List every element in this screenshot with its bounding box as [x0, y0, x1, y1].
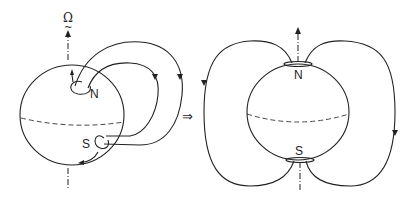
right-field-loop	[305, 41, 395, 186]
right-north-label: N	[294, 68, 303, 82]
left-equator	[21, 118, 124, 125]
right-panel: N S	[201, 27, 398, 190]
right-equator	[247, 114, 349, 122]
flux-direction-arrow-2-icon	[152, 74, 158, 80]
rotation-axis-top	[65, 30, 71, 60]
north-footpoint	[71, 81, 91, 94]
transition-arrow-icon: ⇒	[182, 109, 193, 124]
south-label: S	[82, 137, 90, 151]
right-loop-arrow-icon	[392, 130, 398, 136]
left-sphere	[20, 65, 124, 165]
left-panel: Ω ~ N S	[20, 11, 183, 190]
left-field-loop	[204, 41, 294, 186]
small-arrow-icon	[70, 69, 74, 75]
axis-arrow-right-icon	[295, 27, 301, 34]
south-footpoint	[95, 136, 108, 149]
right-south-label: S	[295, 144, 303, 158]
north-label: N	[90, 87, 99, 101]
omega-tilde: ~	[64, 21, 72, 32]
diagram-canvas: Ω ~ N S ⇒ N S	[0, 0, 414, 199]
